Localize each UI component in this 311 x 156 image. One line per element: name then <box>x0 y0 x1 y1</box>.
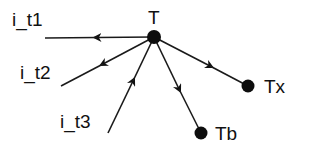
label-i_t1: i_t1 <box>12 9 43 31</box>
edge-T-to-Tx <box>154 37 248 86</box>
edge-i_t3-to-T <box>108 37 154 133</box>
label-Tb: Tb <box>215 123 237 144</box>
edge-T-to-i_t2 <box>61 37 154 86</box>
node-T <box>147 30 161 44</box>
graph-diagram: T Tx Tb i_t1 i_t2 i_t3 <box>0 0 311 156</box>
label-Tx: Tx <box>264 76 286 97</box>
label-i_t2: i_t2 <box>20 62 51 84</box>
node-Tx <box>242 80 255 93</box>
node-Tb <box>195 127 208 140</box>
label-T: T <box>148 7 160 28</box>
edge-T-to-i_t1 <box>45 37 154 38</box>
label-i_t3: i_t3 <box>60 111 91 133</box>
edge-T-to-Tb <box>154 37 201 133</box>
